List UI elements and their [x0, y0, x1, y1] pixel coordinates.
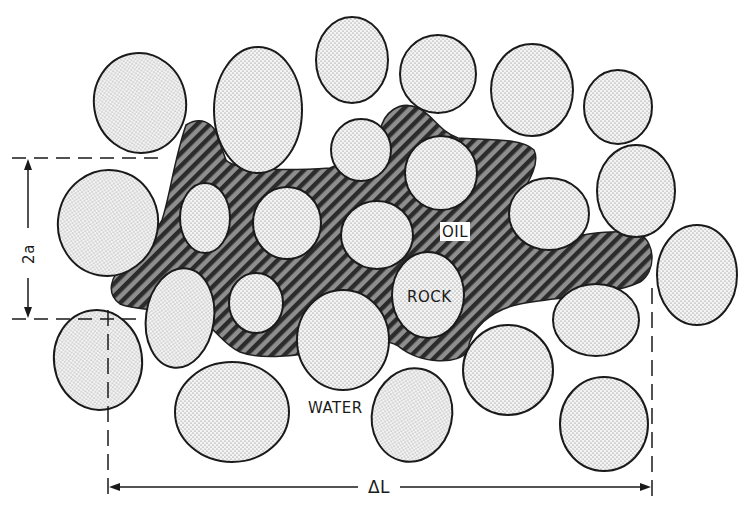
rock-grain	[553, 284, 639, 356]
rock-grain	[341, 201, 413, 269]
arrow-up-icon	[24, 159, 32, 170]
rock-grain	[584, 70, 652, 144]
rock-grain	[597, 145, 675, 237]
rock-grain	[491, 44, 573, 136]
rock-grain	[214, 47, 302, 173]
rock-grain	[297, 290, 389, 390]
arrow-down-icon	[24, 307, 32, 318]
rock-grain	[316, 17, 388, 103]
oil-label: OIL	[442, 223, 468, 241]
arrow-left-icon	[109, 483, 120, 491]
rock-grain	[253, 187, 321, 259]
rock-grain	[175, 362, 289, 462]
rock-grain	[509, 178, 589, 250]
rock-grain	[47, 304, 148, 415]
rock-grain	[560, 377, 648, 471]
rock-grain	[86, 46, 194, 160]
rock-label: ROCK	[407, 288, 452, 306]
length-dimension-label: ΔL	[368, 477, 390, 497]
water-label: WATER	[308, 399, 363, 417]
rock-grain	[400, 35, 476, 113]
rock-grain	[180, 183, 230, 253]
arrow-right-icon	[640, 483, 651, 491]
rock-grain	[657, 225, 737, 325]
rock-grain	[229, 273, 283, 333]
rock-grain	[363, 361, 461, 470]
rock-grain	[405, 136, 477, 210]
oil-ganglion-diagram: OIL ROCK WATER 2a ΔL	[0, 0, 753, 517]
rock-grain	[463, 325, 553, 415]
rock-grain	[331, 119, 391, 181]
height-dimension-label: 2a	[20, 244, 38, 264]
